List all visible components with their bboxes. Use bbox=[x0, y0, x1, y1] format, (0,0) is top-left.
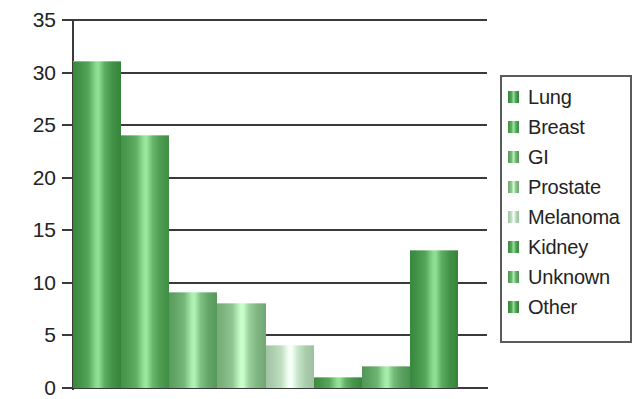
bar-kidney bbox=[314, 377, 362, 389]
y-tick-label: 10 bbox=[4, 272, 56, 293]
bar-lung bbox=[73, 61, 121, 388]
bar-unknown bbox=[362, 366, 410, 388]
legend-item-other[interactable]: Other bbox=[508, 292, 636, 322]
y-tick-label: 30 bbox=[4, 62, 56, 83]
legend-item-melanoma[interactable]: Melanoma bbox=[508, 202, 636, 232]
legend-label: Prostate bbox=[528, 176, 601, 199]
legend-item-prostate[interactable]: Prostate bbox=[508, 172, 636, 202]
bar-gi bbox=[169, 292, 217, 388]
legend-item-breast[interactable]: Breast bbox=[508, 112, 636, 142]
legend-item-gi[interactable]: GI bbox=[508, 142, 636, 172]
bar-breast bbox=[121, 135, 169, 388]
legend-item-unknown[interactable]: Unknown bbox=[508, 262, 636, 292]
bar-prostate bbox=[217, 303, 265, 388]
legend-swatch-icon bbox=[508, 181, 519, 193]
legend-label: GI bbox=[528, 146, 549, 169]
y-tick-label: 0 bbox=[4, 377, 56, 398]
legend-label: Lung bbox=[528, 86, 572, 109]
bar-other bbox=[410, 250, 458, 388]
legend-label: Kidney bbox=[528, 236, 588, 259]
y-tick-label: 35 bbox=[4, 9, 56, 30]
legend-label: Breast bbox=[528, 116, 585, 139]
y-tick-label: 25 bbox=[4, 114, 56, 135]
y-tick-label: 15 bbox=[4, 219, 56, 240]
y-tick-label: 5 bbox=[4, 324, 56, 345]
legend-swatch-icon bbox=[508, 301, 519, 313]
legend-item-lung[interactable]: Lung bbox=[508, 82, 636, 112]
legend-item-kidney[interactable]: Kidney bbox=[508, 232, 636, 262]
legend-swatch-icon bbox=[508, 211, 519, 223]
legend-swatch-icon bbox=[508, 241, 519, 253]
bar-melanoma bbox=[266, 345, 314, 388]
legend-swatch-icon bbox=[508, 271, 519, 283]
legend-swatch-icon bbox=[508, 91, 519, 103]
legend-swatch-icon bbox=[508, 121, 519, 133]
legend-label: Unknown bbox=[528, 266, 610, 289]
legend-label: Melanoma bbox=[528, 206, 620, 229]
legend-swatch-icon bbox=[508, 151, 519, 163]
legend-label: Other bbox=[528, 296, 577, 319]
y-tick-label: 20 bbox=[4, 167, 56, 188]
bar-series bbox=[73, 20, 487, 388]
legend: LungBreastGIProstateMelanomaKidneyUnknow… bbox=[508, 82, 636, 322]
